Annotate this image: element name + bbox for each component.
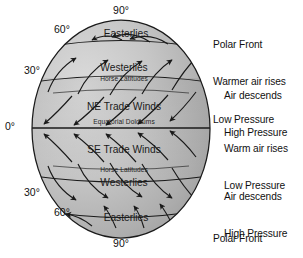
band-label-northern-westerlies: Westerlies <box>100 62 147 74</box>
annotation-south-polar-front: Polar Front Warmer air rises Low Pressur… <box>213 208 286 258</box>
lat-label-30n: 30° <box>24 64 40 77</box>
annotation-line: Polar Front <box>213 39 286 51</box>
circulation-diagram: 90° 60° 30° 0° 30° 60° 90° Easterlies We… <box>0 0 303 258</box>
band-label-southern-westerlies: Westerlies <box>100 177 147 189</box>
band-label-se-trade-winds: SE Trade Winds <box>87 144 161 156</box>
band-label-ne-trade-winds: NE Trade Winds <box>87 101 161 113</box>
lat-label-90s: 90° <box>113 237 129 250</box>
lat-label-90n: 90° <box>113 4 129 17</box>
lat-label-60n: 60° <box>54 23 70 36</box>
band-label-northern-easterlies: Easterlies <box>104 28 149 40</box>
annotation-line: Air descends <box>224 90 287 102</box>
band-label-southern-easterlies: Easterlies <box>104 212 149 224</box>
annotation-line: Warm air rises <box>224 143 288 155</box>
band-label-southern-horse-latitudes: Horse Latitudes <box>100 166 148 174</box>
lat-label-0: 0° <box>5 120 15 133</box>
lat-label-30s: 30° <box>24 186 40 199</box>
lat-label-60s: 60° <box>54 206 70 219</box>
annotation-line: Polar Front <box>213 233 286 245</box>
annotation-line: Air descends <box>224 191 287 203</box>
band-label-equatorial-doldrums: Equatorial Doldrums <box>93 118 155 126</box>
band-label-northern-horse-latitudes: Horse Latitudes <box>100 75 148 83</box>
